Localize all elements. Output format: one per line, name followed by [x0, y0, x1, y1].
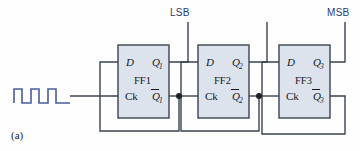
ff2-q-subscript: 2: [239, 62, 243, 71]
ff3-ck-pin-label: Ck: [286, 90, 299, 102]
figure-caption: (a): [11, 129, 24, 142]
flipflop-ff2[interactable]: D Ck FF2 Q 2 Q 2: [198, 45, 249, 118]
ripple-counter-diagram: D Ck FF1 Q 1 Q 1 D Ck FF2 Q 2 Q 2 D: [0, 0, 360, 151]
flipflop-ff1[interactable]: D Ck FF1 Q 1 Q 1: [118, 45, 169, 118]
ff3-d-pin-label: D: [286, 56, 295, 68]
clock-waveform: [14, 89, 70, 103]
ff2-qbar-subscript: 2: [239, 96, 243, 105]
junction-q2bar: [256, 93, 262, 99]
ff1-ck-pin-label: Ck: [125, 90, 138, 102]
q2-output-wire: [249, 22, 267, 62]
figure-container: D Ck FF1 Q 1 Q 1 D Ck FF2 Q 2 Q 2 D: [0, 0, 360, 151]
ff2-name-label: FF2: [214, 75, 231, 86]
ff2-d-pin-label: D: [205, 56, 214, 68]
ff1-q-subscript: 1: [159, 62, 163, 71]
ff3-q-subscript: 3: [319, 62, 324, 71]
ff3-name-label: FF3: [295, 75, 312, 86]
junction-q1bar: [176, 93, 182, 99]
ff1-name-label: FF1: [134, 75, 151, 86]
ff1-qbar-subscript: 1: [159, 96, 163, 105]
ff1-d-pin-label: D: [125, 56, 134, 68]
lsb-label: LSB: [170, 7, 190, 18]
ff3-qbar-subscript: 3: [319, 96, 324, 105]
msb-label: MSB: [327, 7, 350, 18]
flipflop-ff3[interactable]: D Ck FF3 Q 3 Q 3: [279, 45, 330, 118]
ff2-ck-pin-label: Ck: [205, 90, 218, 102]
q3-output-wire: [330, 22, 345, 62]
q1-output-wire: [169, 22, 188, 62]
